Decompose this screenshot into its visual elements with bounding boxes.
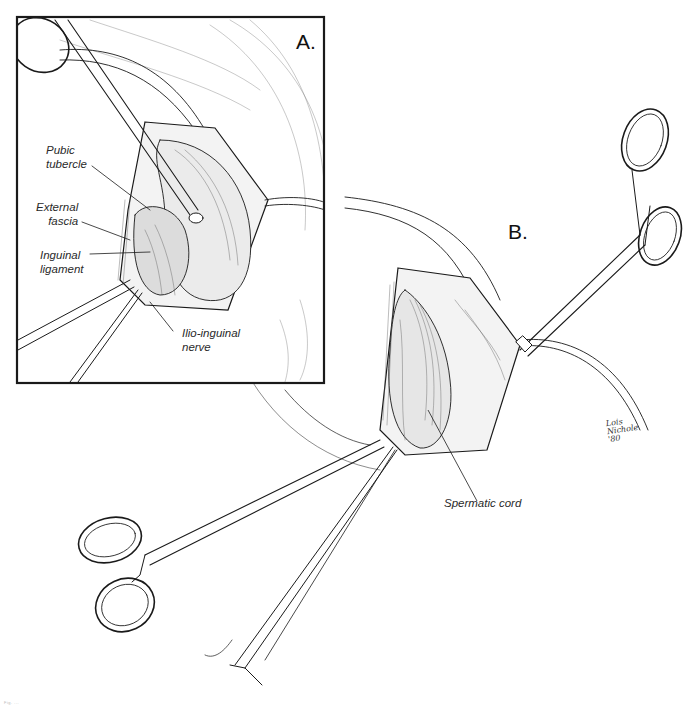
panel-b-label: B.	[508, 220, 528, 244]
label-ilio-inguinal-nerve: Ilio-inguinal nerve	[182, 326, 240, 354]
artist-signature: Lois Nichole '80	[605, 416, 639, 444]
label-external-fascia: External fascia	[36, 200, 78, 228]
panel-a-label: A.	[296, 30, 316, 54]
label-pubic-tubercle: Pubic tubercle	[46, 143, 87, 171]
surgical-illustration: A. Pubic tubercle External fascia Inguin…	[0, 0, 695, 707]
figure-caption: Fig. ...	[4, 700, 19, 705]
label-spermatic-cord: Spermatic cord	[444, 496, 521, 510]
line-art-drawing	[0, 0, 695, 707]
label-inguinal-ligament: Inguinal ligament	[40, 248, 83, 276]
